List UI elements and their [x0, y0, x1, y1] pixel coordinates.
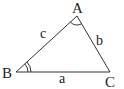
side-label-b: b	[96, 33, 103, 48]
vertex-label-c: C	[105, 74, 115, 89]
vertex-label-b: B	[2, 65, 12, 81]
triangle-diagram: A B C c b a	[0, 0, 124, 89]
side-label-c: c	[40, 26, 46, 41]
angle-arc-b-inner	[25, 64, 28, 72]
triangle-svg: A B C c b a	[0, 0, 124, 89]
vertex-label-a: A	[72, 0, 83, 16]
side-b-line	[77, 16, 110, 72]
angle-arc-a	[70, 22, 81, 25]
side-label-a: a	[59, 71, 66, 86]
